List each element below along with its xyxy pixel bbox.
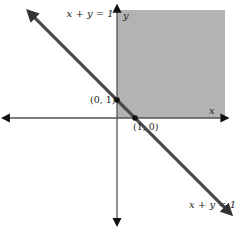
y-axis-label: y — [122, 10, 129, 21]
point-marker — [132, 115, 138, 121]
point-label: (1, 0) — [133, 121, 159, 132]
equation-label: x + y = 1 — [189, 199, 236, 210]
point-label: (0, 1) — [90, 94, 116, 105]
x-axis-label: x — [209, 105, 215, 116]
shaded-region — [117, 10, 225, 118]
equation-label: x + y = 1 — [67, 8, 114, 19]
graph: xy(0, 1)(1, 0)x + y = 1x + y = 1 — [0, 0, 240, 232]
